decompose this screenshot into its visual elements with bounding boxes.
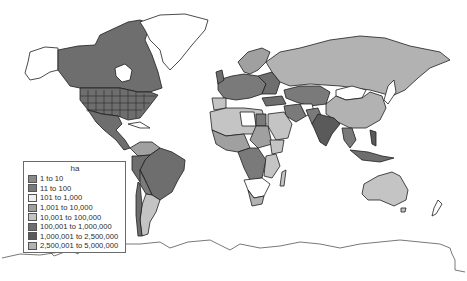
region-southeast-asia — [342, 128, 356, 148]
region-alaska — [25, 47, 58, 80]
legend-label: 11 to 100 — [40, 184, 71, 193]
legend-title: ha — [28, 164, 122, 173]
region-southern-africa — [244, 178, 270, 198]
region-new-zealand — [432, 200, 442, 216]
legend-label: 100,001 to 1,000,000 — [40, 222, 112, 231]
legend-label: 1 to 10 — [40, 174, 63, 183]
legend-label: 1,000,001 to 2,500,000 — [40, 232, 118, 241]
legend-swatch — [28, 184, 37, 192]
legend-label: 10,001 to 100,000 — [40, 213, 101, 222]
region-egypt — [256, 114, 266, 126]
region-cuba — [128, 122, 150, 128]
legend-swatch — [28, 213, 37, 221]
legend-label: 101 to 1,000 — [40, 193, 82, 202]
legend-item: 1,001 to 10,000 — [28, 203, 122, 213]
legend-item: 1 to 10 — [28, 174, 122, 184]
region-libya — [240, 112, 256, 126]
map-legend: ha 1 to 10 11 to 100 101 to 1,000 1,001 … — [23, 161, 126, 253]
legend-item: 2,500,001 to 5,000,000 — [28, 241, 122, 251]
legend-swatch — [28, 204, 37, 212]
legend-label: 1,001 to 10,000 — [40, 203, 93, 212]
legend-label: 2,500,001 to 5,000,000 — [40, 241, 118, 250]
legend-item: 11 to 100 — [28, 184, 122, 194]
legend-swatch — [28, 175, 37, 183]
region-argentina — [140, 194, 160, 236]
region-ethiopia — [270, 140, 284, 154]
legend-swatch — [28, 232, 37, 240]
region-central-africa — [238, 148, 266, 180]
region-philippines — [370, 130, 376, 146]
region-kazakhstan — [284, 86, 330, 106]
legend-item: 10,001 to 100,000 — [28, 212, 122, 222]
region-madagascar — [280, 170, 286, 186]
region-chile — [136, 182, 142, 236]
legend-item: 101 to 1,000 — [28, 193, 122, 203]
region-tasmania — [401, 208, 406, 212]
legend-item: 1,000,001 to 2,500,000 — [28, 232, 122, 242]
legend-swatch — [28, 223, 37, 231]
region-australia — [362, 172, 408, 206]
legend-item: 100,001 to 1,000,000 — [28, 222, 122, 232]
region-indonesia — [350, 150, 394, 162]
region-turkey — [262, 96, 286, 106]
region-russia — [266, 36, 450, 96]
region-western-europe — [218, 74, 266, 100]
legend-swatch — [28, 242, 37, 250]
region-scandinavia — [238, 48, 270, 74]
legend-swatch — [28, 194, 37, 202]
region-east-africa — [264, 154, 280, 178]
